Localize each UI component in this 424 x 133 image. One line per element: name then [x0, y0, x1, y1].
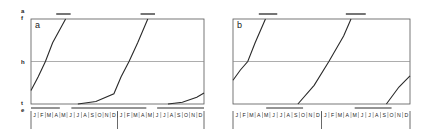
month-tick-label: O	[184, 112, 188, 118]
month-tick-label: F	[40, 112, 43, 118]
month-tick-label: M	[47, 112, 51, 118]
month-tick-label: J	[368, 112, 371, 118]
month-tick-label: F	[331, 112, 334, 118]
month-tick-label: M	[133, 112, 137, 118]
series-curve-3	[168, 93, 204, 104]
month-tick-label: N	[397, 112, 401, 118]
month-tick-label: J	[235, 112, 238, 118]
month-tick-label: S	[382, 112, 386, 118]
month-tick-label: J	[163, 112, 166, 118]
month-tick-label: J	[280, 112, 283, 118]
month-tick-label: A	[141, 112, 145, 118]
month-tick-label: J	[156, 112, 159, 118]
month-tick-label: N	[191, 112, 195, 118]
month-tick-label: F	[242, 112, 245, 118]
panel-label: a	[35, 20, 40, 30]
month-tick-label: J	[324, 112, 327, 118]
month-tick-label: N	[105, 112, 109, 118]
month-tick-label: M	[61, 112, 65, 118]
month-tick-label: J	[33, 112, 36, 118]
y-tick-label-t: t	[21, 100, 23, 106]
y-tick-label-f: f	[21, 15, 24, 21]
month-tick-label: O	[301, 112, 305, 118]
month-tick-label: S	[177, 112, 181, 118]
month-tick-label: N	[309, 112, 313, 118]
month-tick-label: S	[294, 112, 298, 118]
y-tick-label-h: h	[21, 59, 25, 65]
y-tick-label-e: e	[21, 107, 25, 113]
month-tick-label: S	[91, 112, 95, 118]
month-tick-label: J	[361, 112, 364, 118]
month-tick-label: F	[127, 112, 130, 118]
month-tick-label: A	[346, 112, 350, 118]
month-tick-label: J	[69, 112, 72, 118]
month-tick-label: O	[390, 112, 394, 118]
chart-figure: aJFMAMJJASONDJFMAMJJASONDafhtebJFMAMJJAS…	[0, 0, 424, 133]
month-tick-label: J	[120, 112, 123, 118]
month-tick-label: M	[148, 112, 152, 118]
month-tick-label: M	[353, 112, 357, 118]
month-tick-label: M	[338, 112, 342, 118]
month-tick-label: M	[249, 112, 253, 118]
month-tick-label: M	[264, 112, 268, 118]
month-tick-label: D	[112, 112, 116, 118]
month-tick-label: A	[287, 112, 291, 118]
panel-label: b	[237, 20, 242, 30]
panel-b: bJFMAMJJASONDJFMAMJJASOND	[233, 14, 410, 129]
month-tick-label: O	[97, 112, 101, 118]
y-tick-label-a: a	[21, 8, 25, 14]
panel-a: aJFMAMJJASONDJFMAMJJASONDafhte	[21, 8, 204, 129]
month-tick-label: A	[257, 112, 261, 118]
month-tick-label: A	[170, 112, 174, 118]
month-tick-label: D	[404, 112, 408, 118]
month-tick-label: D	[316, 112, 320, 118]
month-tick-label: A	[375, 112, 379, 118]
month-tick-label: A	[54, 112, 58, 118]
series-curve-3	[386, 76, 410, 104]
month-tick-label: D	[199, 112, 203, 118]
month-tick-label: A	[83, 112, 87, 118]
month-tick-label: J	[272, 112, 275, 118]
month-tick-label: J	[77, 112, 80, 118]
